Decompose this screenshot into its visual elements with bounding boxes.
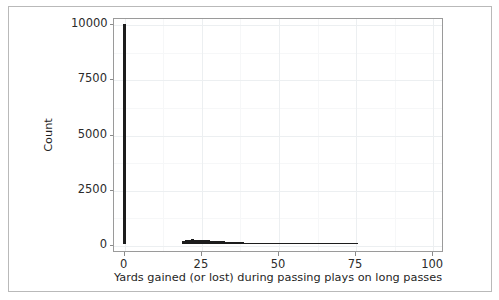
y-tick-label: 0: [71, 239, 107, 251]
y-tick-mark: [110, 135, 114, 136]
histogram-bars: [114, 19, 442, 251]
y-tick-mark: [110, 245, 114, 246]
y-tick-mark: [110, 24, 114, 25]
figure-canvas: 0255075100025005000750010000 Yards gaine…: [0, 0, 499, 300]
x-tick-mark: [432, 252, 433, 256]
x-tick-mark: [278, 252, 279, 256]
histogram-bar: [123, 24, 126, 244]
x-tick-label: 100: [421, 259, 443, 271]
x-tick-mark: [355, 252, 356, 256]
y-tick-label: 7500: [71, 74, 107, 86]
x-tick-label: 0: [120, 259, 127, 271]
y-tick-label: 2500: [71, 184, 107, 196]
y-tick-label: 5000: [71, 129, 107, 141]
x-axis-label: Yards gained (or lost) during passing pl…: [113, 272, 443, 283]
x-tick-label: 75: [348, 259, 363, 271]
x-tick-mark: [124, 252, 125, 256]
y-tick-label: 10000: [71, 18, 107, 30]
x-tick-label: 25: [194, 259, 209, 271]
y-tick-mark: [110, 79, 114, 80]
x-tick-mark: [201, 252, 202, 256]
histogram-bar: [355, 243, 358, 244]
x-tick-label: 50: [271, 259, 286, 271]
y-axis-label: Count: [43, 118, 54, 152]
y-tick-mark: [110, 190, 114, 191]
plot-area: [113, 18, 443, 252]
